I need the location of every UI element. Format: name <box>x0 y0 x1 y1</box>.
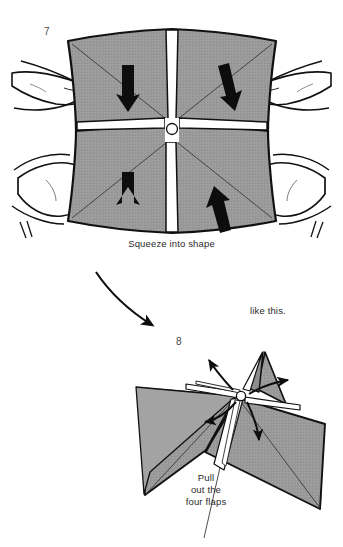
step-7-paper <box>68 29 276 233</box>
step-number-8: 8 <box>176 336 182 347</box>
caption-pull-out-the-four-flaps: Pull out the four flaps <box>170 472 242 508</box>
caption-line-2: out the <box>170 484 242 496</box>
caption-squeeze-into-shape: Squeeze into shape <box>0 238 343 250</box>
caption-line-3: four flaps <box>170 496 242 508</box>
caption-like-this: like this. <box>250 305 286 317</box>
diagram-canvas <box>0 0 343 547</box>
step-8-figure <box>136 352 325 538</box>
step-transition-arrow <box>96 272 152 325</box>
step-number-7: 7 <box>44 26 50 37</box>
caption-line-1: Pull <box>170 472 242 484</box>
step-7-figure <box>12 29 331 238</box>
origami-diagram: 7 Squeeze into shape like this. 8 Pull o… <box>0 0 343 547</box>
